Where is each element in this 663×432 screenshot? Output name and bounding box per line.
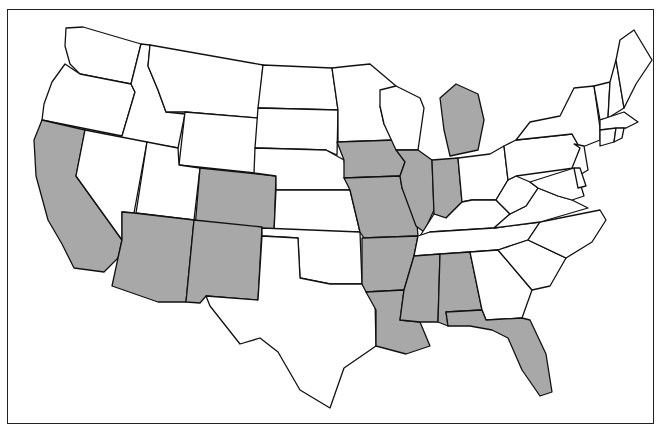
state-new-mexico[interactable] bbox=[186, 220, 262, 303]
state-north-dakota[interactable] bbox=[258, 65, 338, 110]
state-florida[interactable] bbox=[446, 310, 552, 396]
state-wyoming[interactable] bbox=[179, 112, 258, 173]
us-map bbox=[0, 0, 663, 432]
state-maine[interactable] bbox=[616, 30, 652, 108]
state-michigan[interactable] bbox=[440, 84, 484, 156]
state-rhode-island[interactable] bbox=[614, 128, 624, 142]
state-montana[interactable] bbox=[148, 45, 263, 118]
state-arizona[interactable] bbox=[112, 212, 194, 302]
state-connecticut[interactable] bbox=[600, 128, 616, 146]
state-kansas[interactable] bbox=[274, 190, 360, 232]
